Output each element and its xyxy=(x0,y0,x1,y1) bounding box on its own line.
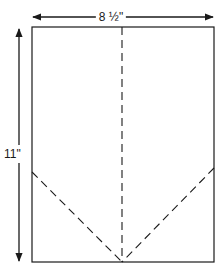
left-diagonal-fold-line xyxy=(32,172,122,262)
width-label: 8 ½" xyxy=(96,10,126,24)
right-diagonal-fold-line xyxy=(122,168,214,262)
folding-diagram xyxy=(0,0,222,274)
height-label: 11" xyxy=(4,145,21,163)
paper-sheet xyxy=(32,27,214,262)
